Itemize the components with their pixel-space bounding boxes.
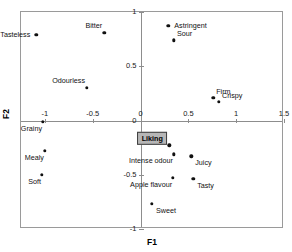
x-tick-mark (188, 119, 189, 123)
x-tick-mark (45, 119, 46, 123)
y-axis-title: F2 (2, 109, 11, 119)
point-label: Tasty (197, 182, 214, 189)
x-tick-label: 1 (234, 110, 238, 118)
point-label: Crispy (222, 92, 242, 99)
point-label: Odourless (52, 77, 85, 84)
data-point (40, 173, 43, 176)
data-point (85, 86, 88, 89)
y-tick-mark (139, 175, 144, 176)
point-label: Bitter (85, 22, 102, 29)
x-tick-label: 1.5 (279, 110, 289, 118)
point-label: Mealy (25, 154, 44, 161)
x-tick-label: -0.5 (86, 110, 99, 118)
highlighted-point-label: Liking (137, 132, 167, 144)
data-point (172, 152, 175, 155)
plot-area: -1-0.500.511.510.50-0.5-1 TastelessBitte… (20, 11, 283, 228)
y-tick-label: 0 (117, 117, 137, 125)
data-point (41, 120, 44, 123)
point-label: Apple flavour (130, 181, 172, 188)
y-tick-label: -1 (117, 225, 137, 233)
x-tick-label: 0 (138, 110, 142, 118)
x-tick-label: 0.5 (183, 110, 193, 118)
data-point (35, 33, 38, 36)
data-point (171, 176, 174, 179)
y-tick-label: -0.5 (117, 171, 137, 179)
y-tick-mark (139, 229, 144, 230)
y-tick-mark (139, 66, 144, 67)
x-tick-mark (93, 119, 94, 123)
point-label: Sweet (156, 207, 176, 214)
data-point (168, 144, 171, 147)
data-point (217, 100, 220, 103)
horizontal-zero-axis (21, 121, 282, 122)
x-tick-label: -1 (42, 110, 49, 118)
data-point (150, 202, 153, 205)
data-point (172, 39, 175, 42)
data-point (43, 149, 46, 152)
data-point (167, 24, 170, 27)
scatter-plot-biplot: -1-0.500.511.510.50-0.5-1 TastelessBitte… (0, 0, 292, 252)
point-label: Soft (28, 178, 41, 185)
data-point (190, 155, 193, 158)
data-point (103, 31, 106, 34)
data-point (191, 177, 194, 180)
point-label: Juicy (195, 160, 211, 167)
y-tick-label: 0.5 (117, 63, 137, 71)
point-label: Grainy (21, 125, 42, 132)
x-tick-mark (141, 119, 142, 123)
point-label: Intense odour (129, 158, 173, 165)
point-label: Sour (177, 31, 192, 38)
point-label: Tasteless (0, 31, 30, 38)
x-axis-title: F1 (147, 238, 157, 247)
x-tick-mark (284, 119, 285, 123)
y-tick-mark (139, 12, 144, 13)
x-tick-mark (236, 119, 237, 123)
y-tick-label: 1 (117, 8, 137, 16)
data-point (212, 96, 215, 99)
